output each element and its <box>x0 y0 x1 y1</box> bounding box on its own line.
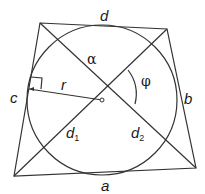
center-point <box>100 98 104 102</box>
right-angle-mark <box>31 77 42 89</box>
d2-sub: 2 <box>139 133 144 143</box>
side-label-d: d <box>100 7 109 24</box>
quadrilateral <box>14 23 196 176</box>
d1-sub: 1 <box>74 133 79 143</box>
diagonal-label-d2: d2 <box>131 124 144 143</box>
angle-alpha-label: α <box>87 51 97 67</box>
angle-phi-label: φ <box>141 73 151 89</box>
radius-label: r <box>61 76 67 93</box>
radius-arrowhead <box>29 87 34 91</box>
diagonal-label-d1: d1 <box>66 124 79 143</box>
angle-phi-arc <box>128 70 136 104</box>
diagonal-d2 <box>40 23 196 168</box>
side-label-a: a <box>101 177 109 194</box>
side-label-b: b <box>184 90 192 107</box>
side-label-c: c <box>10 89 18 106</box>
diagram: d b a c r α φ d1 d2 <box>0 0 205 194</box>
